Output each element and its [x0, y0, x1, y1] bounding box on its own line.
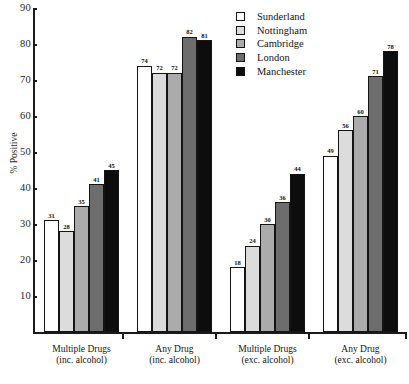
bar[interactable]	[338, 130, 353, 332]
legend-swatch-icon	[236, 26, 245, 35]
bar-group: 3128354145	[35, 8, 128, 332]
bar-value-label: 45	[98, 162, 125, 169]
chart-legend: SunderlandNottinghamCambridgeLondonManch…	[236, 10, 356, 78]
legend-item-label: Manchester	[257, 66, 306, 77]
legend-item-label: Sunderland	[257, 11, 305, 22]
bar[interactable]	[104, 170, 119, 332]
x-axis-label-line2: (exc. alcohol)	[304, 355, 409, 366]
bar[interactable]	[44, 220, 59, 332]
bar-value-label: 78	[377, 43, 404, 50]
bar-item[interactable]: 31	[44, 8, 59, 332]
bar-item[interactable]: 41	[89, 8, 104, 332]
legend-swatch-icon	[236, 67, 245, 76]
bar-value-label: 44	[284, 165, 311, 172]
x-axis-group-separator	[215, 332, 217, 339]
x-axis-line	[33, 332, 407, 334]
y-axis-tick-label: 90	[3, 3, 31, 13]
bar-item[interactable]: 71	[368, 8, 383, 332]
y-axis-tick-label: 70	[3, 75, 31, 85]
y-axis-tick-label: 10	[3, 291, 31, 301]
bar[interactable]	[323, 156, 338, 332]
bar[interactable]	[59, 231, 74, 332]
bar[interactable]	[290, 174, 305, 332]
legend-item-label: Nottingham	[257, 25, 307, 36]
bar[interactable]	[368, 76, 383, 332]
bar-item[interactable]: 78	[383, 8, 398, 332]
bar[interactable]	[353, 116, 368, 332]
legend-item[interactable]: Sunderland	[236, 10, 356, 24]
bar[interactable]	[275, 202, 290, 332]
x-axis-group-separator	[308, 332, 310, 339]
y-axis-tick-label: 60	[3, 111, 31, 121]
bar-item[interactable]: 45	[104, 8, 119, 332]
legend-item-label: London	[257, 52, 290, 63]
bar-item[interactable]: 72	[152, 8, 167, 332]
y-axis-tick-labels: 908070605040302010	[0, 0, 31, 384]
legend-item-label: Cambridge	[257, 38, 304, 49]
x-axis-group-separator	[122, 332, 124, 339]
bar[interactable]	[230, 267, 245, 332]
bar-chart: 908070605040302010 % Positive 3128354145…	[0, 0, 409, 384]
y-axis-title: % Positive	[9, 123, 19, 183]
y-axis-tick-label: 20	[3, 255, 31, 265]
bar[interactable]	[383, 51, 398, 332]
bar[interactable]	[74, 206, 89, 332]
x-axis-label-line1: Multiple Drugs	[238, 344, 296, 354]
legend-item[interactable]: Manchester	[236, 64, 356, 78]
bar-item[interactable]: 35	[74, 8, 89, 332]
x-axis-label-line1: Any Drug	[155, 344, 193, 354]
legend-swatch-icon	[236, 39, 245, 48]
bar[interactable]	[245, 246, 260, 332]
y-axis-tick-label: 40	[3, 183, 31, 193]
bar[interactable]	[89, 184, 104, 332]
y-axis-tick-label: 30	[3, 219, 31, 229]
bar-item[interactable]: 72	[167, 8, 182, 332]
bar[interactable]	[197, 40, 212, 332]
bar[interactable]	[182, 37, 197, 332]
legend-swatch-icon	[236, 12, 245, 21]
legend-item[interactable]: London	[236, 51, 356, 65]
bar-group: 7472728281	[128, 8, 221, 332]
bar[interactable]	[152, 73, 167, 332]
bar[interactable]	[260, 224, 275, 332]
x-axis-end-tick	[405, 332, 407, 339]
bar-item[interactable]: 82	[182, 8, 197, 332]
bar-item[interactable]: 74	[137, 8, 152, 332]
bar-item[interactable]: 28	[59, 8, 74, 332]
bar-value-label: 81	[191, 32, 218, 39]
x-axis-label: Any Drug(exc. alcohol)	[304, 344, 409, 366]
legend-swatch-icon	[236, 53, 245, 62]
y-axis-tick-label: 80	[3, 39, 31, 49]
bar[interactable]	[167, 73, 182, 332]
legend-item[interactable]: Nottingham	[236, 24, 356, 38]
legend-item[interactable]: Cambridge	[236, 37, 356, 51]
x-axis-label-line1: Any Drug	[341, 344, 379, 354]
bar[interactable]	[137, 66, 152, 332]
x-axis-label-line1: Multiple Drugs	[52, 344, 110, 354]
bar-item[interactable]: 81	[197, 8, 212, 332]
